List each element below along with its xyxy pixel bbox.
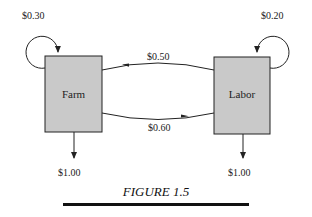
flow-diagram: $0.30 $0.20 Farm Labor $0.50 $0.60 $1.00…: [0, 0, 312, 217]
edge-labor-to-farm-label: $0.50: [147, 51, 170, 62]
labor-self-loop-label: $0.20: [261, 10, 284, 21]
farm-output-label: $1.00: [58, 167, 81, 178]
labor-node-label: Labor: [229, 88, 256, 100]
edge-farm-to-labor: [102, 113, 214, 120]
farm-self-loop-label: $0.30: [22, 10, 45, 21]
arrowhead-left-icon: [122, 64, 129, 67]
figure-caption: FIGURE 1.5: [122, 184, 190, 199]
arrowhead-right-icon: [181, 114, 189, 117]
caption-rule: [63, 203, 249, 206]
labor-output-label: $1.00: [228, 167, 251, 178]
edge-farm-to-labor-label: $0.60: [148, 122, 171, 133]
farm-node-label: Farm: [62, 88, 86, 100]
edge-labor-to-farm: [102, 63, 214, 70]
